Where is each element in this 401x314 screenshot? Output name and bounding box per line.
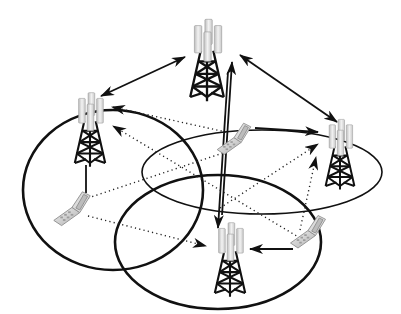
tower-top [190, 19, 224, 101]
tower-bottom [215, 223, 245, 297]
link-tower-top-tower-right [240, 55, 337, 122]
phone-center [217, 123, 251, 154]
diagram-canvas [0, 0, 401, 314]
network-diagram: Cellular network with base stations and … [0, 0, 401, 314]
solid-links [86, 55, 337, 249]
coverage-cell-bottom [115, 175, 321, 309]
dotted-link-phone-left-to-tower-bottom [88, 216, 206, 246]
tower-right [326, 119, 355, 189]
coverage-cell-right [142, 130, 382, 214]
coverage-cell-left [23, 110, 203, 270]
tower-left [75, 93, 105, 167]
link-tower-top-tower-left [101, 57, 185, 96]
dotted-link-phone-right-to-tower-left [113, 126, 300, 238]
phone-left [54, 192, 90, 226]
